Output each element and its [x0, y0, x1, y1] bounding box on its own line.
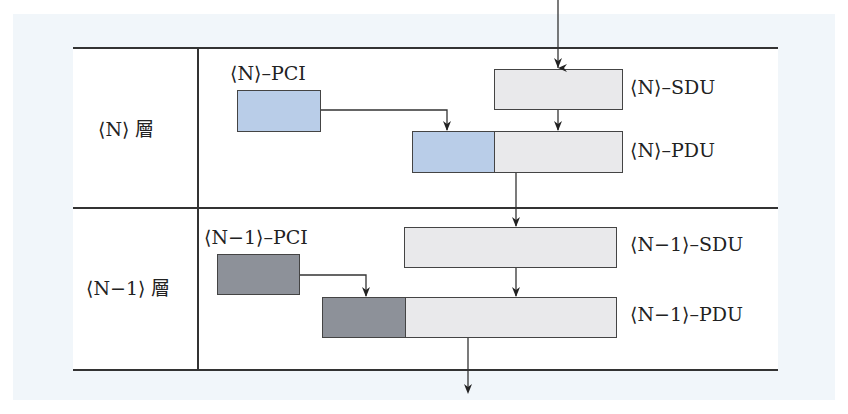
flow-arrows — [0, 0, 848, 414]
n-pci-to-pdu-arrow — [321, 110, 447, 130]
n1-pci-to-pdu-arrow — [300, 275, 366, 296]
